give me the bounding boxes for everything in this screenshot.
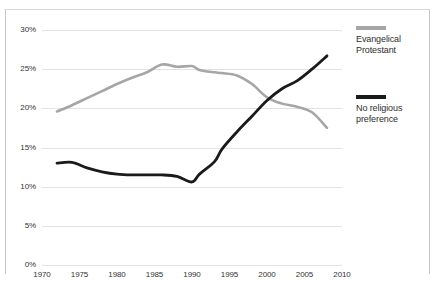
line-evangelical-protestant — [57, 64, 327, 128]
legend-label-no-religion-line2: preference — [356, 114, 434, 125]
legend-swatch-evangelical — [356, 26, 386, 30]
legend-entry-no-religious-preference: No religious preference — [356, 95, 434, 125]
legend-label-evangelical-line2: Protestant — [356, 45, 434, 56]
legend-label-evangelical-line1: Evangelical — [356, 34, 434, 45]
legend-label-no-religion-line1: No religious — [356, 103, 434, 114]
line-no-religious-preference — [57, 56, 327, 182]
legend-entry-evangelical: Evangelical Protestant — [356, 26, 434, 56]
chart-page: — — — — — — — — — — — — — — — — — — — — … — [0, 0, 436, 281]
legend-swatch-no-religious-preference — [356, 95, 386, 99]
